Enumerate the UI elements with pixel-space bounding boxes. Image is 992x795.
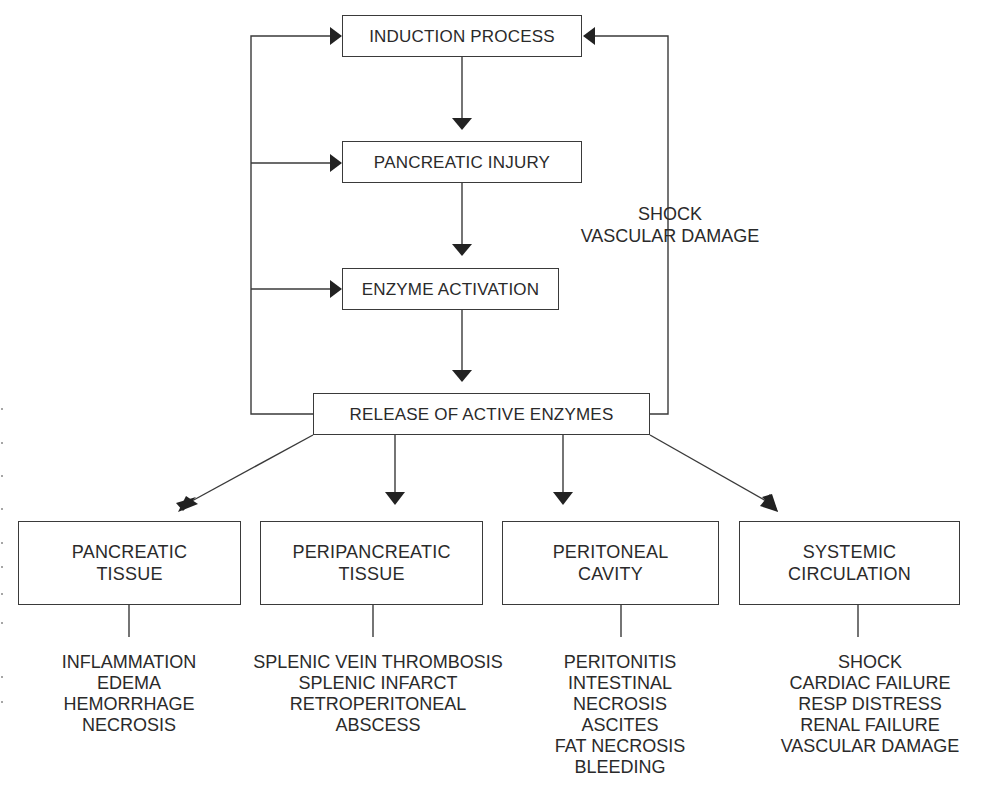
effect-item: SPLENIC INFARCT <box>233 673 523 694</box>
target-systemic-circulation: SYSTEMIC CIRCULATION <box>739 521 960 605</box>
scan-artifact <box>1 622 3 624</box>
target-peritoneal-cavity: PERITONEAL CAVITY <box>502 521 719 605</box>
stage-release-of-active-enzymes: RELEASE OF ACTIVE ENZYMES <box>313 393 650 435</box>
arrow-left-icon <box>583 27 595 45</box>
effect-item: INTESTINAL <box>530 673 710 694</box>
effect-item: NECROSIS <box>530 694 710 715</box>
effect-item: SPLENIC VEIN THROMBOSIS <box>233 652 523 673</box>
target-title-line: CAVITY <box>578 563 643 585</box>
target-title-line: SYSTEMIC <box>803 541 897 563</box>
target-pancreatic-tissue: PANCREATIC TISSUE <box>18 521 241 605</box>
effect-item: EDEMA <box>19 673 239 694</box>
effect-item: PERITONITIS <box>530 652 710 673</box>
effect-item: HEMORRHAGE <box>19 694 239 715</box>
effect-item: RENAL FAILURE <box>760 715 980 736</box>
target-title-line: TISSUE <box>338 563 404 585</box>
stage-label: ENZYME ACTIVATION <box>362 279 540 300</box>
effect-item: RESP DISTRESS <box>760 694 980 715</box>
effect-item: CARDIAC FAILURE <box>760 673 980 694</box>
effect-item: FAT NECROSIS <box>530 736 710 757</box>
scan-artifact <box>1 475 3 477</box>
effect-item: ASCITES <box>530 715 710 736</box>
arrow-diagonal-right-icon <box>760 494 778 512</box>
stage-label: INDUCTION PROCESS <box>369 26 555 47</box>
scan-artifact <box>1 566 3 568</box>
scan-artifact <box>1 701 3 703</box>
feedback-line: VASCULAR DAMAGE <box>575 225 765 247</box>
effects-peripancreatic-tissue: SPLENIC VEIN THROMBOSIS SPLENIC INFARCT … <box>233 652 523 736</box>
arrow-down-icon <box>452 118 472 130</box>
stage-enzyme-activation: ENZYME ACTIVATION <box>342 268 559 310</box>
scan-artifact <box>1 408 3 410</box>
scan-artifact <box>1 542 3 544</box>
feedback-line: SHOCK <box>575 203 765 225</box>
stage-label: RELEASE OF ACTIVE ENZYMES <box>350 404 614 425</box>
scan-artifact <box>1 676 3 678</box>
effect-item: ABSCESS <box>233 715 523 736</box>
target-peripancreatic-tissue: PERIPANCREATIC TISSUE <box>260 521 483 605</box>
stage-label: PANCREATIC INJURY <box>374 152 550 173</box>
arrow-right-icon <box>330 154 342 172</box>
stage-induction-process: INDUCTION PROCESS <box>342 15 582 57</box>
effect-item: SHOCK <box>760 652 980 673</box>
effect-item: NECROSIS <box>19 715 239 736</box>
effects-peritoneal-cavity: PERITONITIS INTESTINAL NECROSIS ASCITES … <box>530 652 710 778</box>
effect-item: RETROPERITONEAL <box>233 694 523 715</box>
scan-artifact <box>1 508 3 510</box>
stage-pancreatic-injury: PANCREATIC INJURY <box>342 141 582 183</box>
arrow-right-icon <box>330 280 342 298</box>
effect-item: VASCULAR DAMAGE <box>760 736 980 757</box>
scan-artifact <box>1 593 3 595</box>
scan-artifact <box>1 442 3 444</box>
target-title-line: TISSUE <box>96 563 162 585</box>
target-title-line: PERITONEAL <box>553 541 669 563</box>
arrow-down-icon <box>385 492 405 505</box>
target-title-line: CIRCULATION <box>788 563 911 585</box>
target-title-line: PERIPANCREATIC <box>292 541 450 563</box>
effects-systemic-circulation: SHOCK CARDIAC FAILURE RESP DISTRESS RENA… <box>760 652 980 757</box>
arrow-right-icon <box>330 27 342 45</box>
effect-item: BLEEDING <box>530 757 710 778</box>
arrow-down-icon <box>452 370 472 382</box>
feedback-annotation: SHOCK VASCULAR DAMAGE <box>575 203 765 247</box>
effects-pancreatic-tissue: INFLAMMATION EDEMA HEMORRHAGE NECROSIS <box>19 652 239 736</box>
arrow-down-icon <box>553 492 573 505</box>
arrow-down-icon <box>452 244 472 256</box>
effect-item: INFLAMMATION <box>19 652 239 673</box>
target-title-line: PANCREATIC <box>72 541 187 563</box>
